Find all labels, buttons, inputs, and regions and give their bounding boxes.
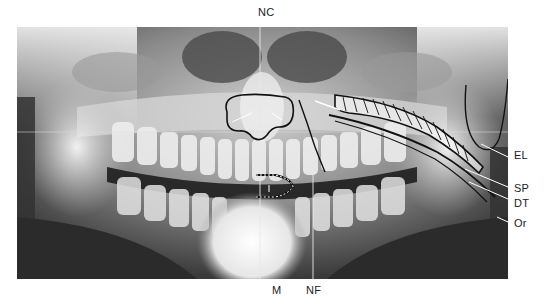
label-sp: SP <box>514 182 529 194</box>
radiograph-figure: NC M NF EL SP DT Or <box>0 0 548 307</box>
label-nc: NC <box>258 6 274 18</box>
label-dt: DT <box>514 197 529 209</box>
label-m: M <box>272 284 281 296</box>
radiograph-image <box>17 27 508 279</box>
panoramic-radiograph <box>17 27 508 279</box>
label-nf: NF <box>306 284 321 296</box>
label-or: Or <box>514 217 527 229</box>
label-el: EL <box>514 149 528 161</box>
